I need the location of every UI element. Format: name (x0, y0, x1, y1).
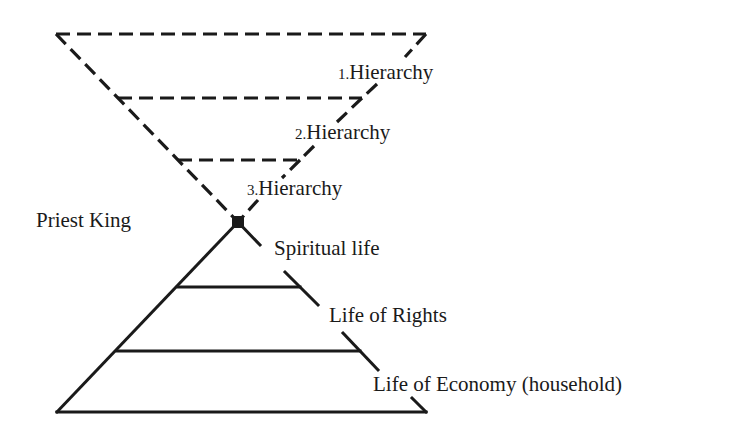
hierarchy-2-text: Hierarchy (306, 120, 390, 144)
inverted-right-edge-2 (362, 84, 377, 98)
hierarchy-3-number: 3. (247, 182, 258, 198)
life-of-economy-label: Life of Economy (household) (373, 374, 622, 395)
hierarchy-1-number: 1. (338, 66, 349, 82)
inverted-right-edge-3 (337, 98, 362, 122)
inverted-left-edge (56, 34, 238, 222)
spiritual-life-label: Spiritual life (274, 238, 380, 259)
hierarchy-3-label: 3.Hierarchy (247, 178, 342, 199)
pyramid-right-edge-4 (412, 398, 426, 412)
hierarchy-2-label: 2.Hierarchy (295, 122, 390, 143)
priest-king-label: Priest King (36, 210, 131, 231)
pyramid-right-edge-1 (238, 222, 260, 245)
hierarchy-1-label: 1.Hierarchy (338, 62, 433, 83)
hierarchy-2-number: 2. (295, 126, 306, 142)
inverted-right-edge-1 (405, 34, 426, 57)
hierarchy-3-text: Hierarchy (258, 176, 342, 200)
pyramid-left-edge (57, 222, 238, 412)
inverted-right-edge-4 (300, 146, 314, 160)
life-of-rights-label: Life of Rights (329, 305, 447, 326)
hierarchy-1-text: Hierarchy (349, 60, 433, 84)
